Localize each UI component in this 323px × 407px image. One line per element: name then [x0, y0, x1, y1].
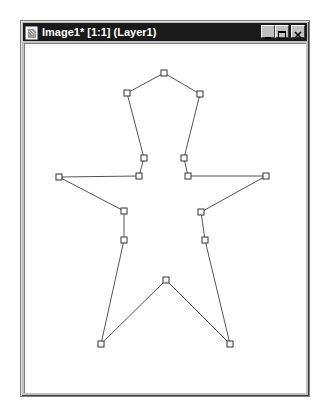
vertex-handle-head-left[interactable] [124, 90, 130, 96]
vertex-handle-head-top[interactable] [161, 70, 167, 76]
vertex-handle-hand-right[interactable] [263, 173, 269, 179]
vertex-handle-foot-left[interactable] [98, 341, 104, 347]
vertex-handle-crotch[interactable] [163, 277, 169, 283]
vertex-handles[interactable] [56, 70, 269, 347]
vertex-handle-head-right[interactable] [197, 91, 203, 97]
vertex-handle-hip-left[interactable] [121, 237, 127, 243]
vertex-handle-hip-right[interactable] [202, 237, 208, 243]
vertex-handle-hand-left[interactable] [56, 174, 62, 180]
vertex-handle-armpit-left[interactable] [121, 208, 127, 214]
polygon-shape[interactable] [0, 0, 323, 407]
vertex-handle-armpit-right[interactable] [198, 209, 204, 215]
vertex-handle-shoulder-right[interactable] [185, 173, 191, 179]
vertex-handle-neck-right[interactable] [181, 155, 187, 161]
vertex-handle-foot-right[interactable] [227, 341, 233, 347]
vertex-handle-shoulder-left[interactable] [136, 173, 142, 179]
star-figure-outline[interactable] [59, 73, 266, 344]
vertex-handle-neck-left[interactable] [141, 155, 147, 161]
